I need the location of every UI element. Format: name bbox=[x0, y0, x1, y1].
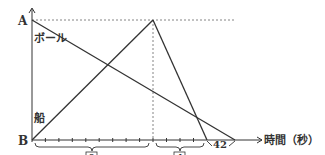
point-b-label: B bbox=[18, 134, 28, 148]
ship-line-down bbox=[153, 20, 207, 140]
x-axis-label: 時間（秒） bbox=[264, 133, 319, 147]
brace-4 bbox=[156, 143, 204, 151]
distance-time-diagram: A B ボール 船 時間（秒） 9 4 42 bbox=[0, 0, 325, 155]
brace-4-label: 4 bbox=[177, 153, 183, 155]
ship-label: 船 bbox=[34, 111, 45, 125]
ball-label: ボール bbox=[34, 31, 67, 45]
brace-9 bbox=[35, 143, 149, 151]
point-a-label: A bbox=[17, 14, 28, 28]
brace-9-label: 9 bbox=[89, 153, 95, 155]
brace-42-label: 42 bbox=[213, 139, 227, 150]
